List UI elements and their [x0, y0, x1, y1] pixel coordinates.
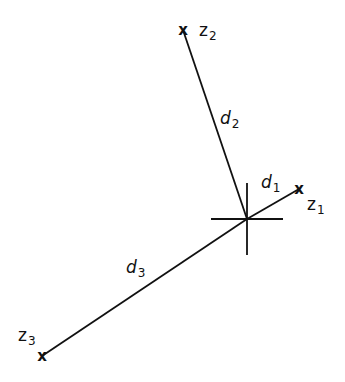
label-z1-sub: 1: [317, 203, 325, 217]
label-d2-main: d: [220, 108, 231, 128]
label-z3: z3: [18, 327, 36, 347]
distance-line-d3: [42, 219, 247, 356]
label-z2-main: z: [199, 20, 208, 40]
label-d2: d2: [220, 110, 239, 130]
label-d2-sub: 2: [232, 117, 240, 131]
label-z3-main: z: [18, 325, 27, 345]
label-z1-main: z: [307, 194, 316, 214]
label-z2: z2: [199, 22, 217, 42]
point-marker-z3-icon: x: [37, 349, 47, 364]
label-d1-main: d: [261, 172, 272, 192]
label-z1: z1: [307, 196, 325, 216]
label-d3: d3: [126, 259, 145, 279]
point-marker-z1-icon: x: [294, 182, 304, 197]
label-z2-sub: 2: [209, 29, 217, 43]
label-d1: d1: [261, 174, 280, 194]
label-d1-sub: 1: [273, 181, 281, 195]
label-d3-sub: 3: [138, 266, 146, 280]
point-marker-z2-icon: x: [178, 23, 188, 38]
label-z3-sub: 3: [28, 334, 36, 348]
label-d3-main: d: [126, 257, 137, 277]
